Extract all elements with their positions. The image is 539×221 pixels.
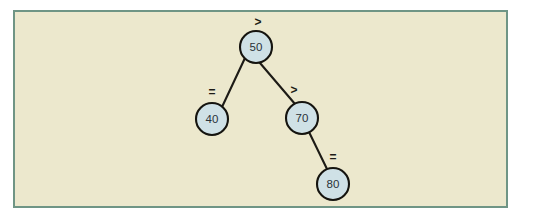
node-label-40: 40 [206, 113, 219, 125]
node-label-80: 80 [327, 178, 340, 190]
tree-node-70: 70 [286, 102, 318, 134]
binary-tree-diagram: > = > = 50 40 70 80 [0, 0, 539, 221]
tree-node-50: 50 [240, 31, 272, 63]
tree-node-80: 80 [317, 168, 349, 200]
tree-edge-70-80 [309, 132, 327, 169]
figure-canvas: > = > = 50 40 70 80 [0, 0, 539, 221]
node-label-70: 70 [296, 112, 309, 124]
annotation-right-edge-comparison: > [290, 83, 297, 97]
node-label-50: 50 [250, 41, 263, 53]
tree-edge-50-40 [222, 58, 245, 107]
tree-node-40: 40 [196, 103, 228, 135]
annotation-root-comparison: > [254, 15, 261, 29]
annotation-leaf-edge-comparison: = [329, 150, 336, 164]
annotation-left-edge-comparison: = [208, 85, 215, 99]
tree-annotations: > = > = [208, 15, 336, 164]
